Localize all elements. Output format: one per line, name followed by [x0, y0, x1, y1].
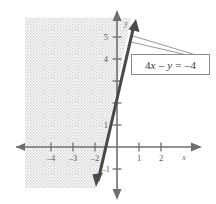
coordinate-plane-svg: –4 –3 –2 1 2 x 5 4 1 –1 y	[0, 0, 216, 204]
equation-variable-y: y	[167, 59, 172, 71]
y-tick-label-5: 5	[104, 32, 108, 42]
y-axis-arrow-up	[113, 10, 122, 21]
y-tick-label-1: 1	[104, 120, 108, 130]
equation-label: 4x – y = –4	[145, 59, 196, 71]
x-axis-title: x	[181, 153, 186, 162]
equation-variable-x: x	[151, 59, 156, 71]
x-axis-arrow-right	[191, 143, 202, 152]
x-tick-label-1: 1	[137, 153, 141, 163]
equation-equals-sign: =	[175, 59, 181, 71]
x-tick-label--4: –4	[46, 153, 56, 163]
x-tick-label-2: 2	[159, 153, 163, 163]
equation-minus-sign: –	[159, 59, 165, 71]
x-axis-arrow-left	[16, 143, 25, 151]
x-tick-label--3: –3	[68, 153, 78, 163]
y-axis-title: y	[123, 19, 128, 28]
leader-line-upper	[133, 36, 196, 55]
y-axis-arrow-down	[113, 189, 122, 200]
equation-callout-box: 4x – y = –4	[131, 54, 210, 75]
equation-right-hand-side: –4	[185, 59, 196, 71]
graph-figure: –4 –3 –2 1 2 x 5 4 1 –1 y	[0, 0, 216, 204]
x-tick-label--2: –2	[90, 153, 100, 163]
